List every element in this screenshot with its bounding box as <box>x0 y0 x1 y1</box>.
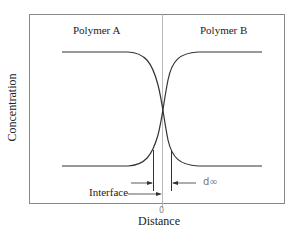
polymer-b-label: Polymer B <box>200 24 247 36</box>
d-inf-label: d∞ <box>203 176 218 187</box>
interface-arrowhead <box>156 192 162 196</box>
interface-diagram <box>0 0 298 229</box>
x-axis-label: Distance <box>138 214 180 229</box>
polymer-b-curve <box>62 52 262 166</box>
plot-frame <box>30 15 285 204</box>
polymer-a-label: Polymer A <box>73 24 120 36</box>
y-axis-label: Concentration <box>5 74 20 142</box>
interface-label: Interface <box>89 186 128 198</box>
right-arrowhead <box>172 181 178 185</box>
polymer-a-curve <box>62 52 262 166</box>
left-arrowhead <box>147 181 153 185</box>
